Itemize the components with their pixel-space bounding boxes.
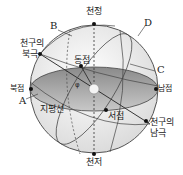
horizon-label: 지평선 (40, 104, 64, 114)
angle-phi-label: φ (75, 80, 80, 90)
celestial-north-pole-label-1: 천구의 (20, 38, 44, 48)
observer-center (89, 84, 99, 94)
north-point (29, 87, 33, 91)
celestial-north-pole-point (38, 52, 42, 56)
zenith-point (92, 22, 96, 26)
west-point-label: 서점 (108, 111, 124, 121)
letter-b: B (50, 21, 57, 31)
nadir-label: 천저 (86, 157, 102, 167)
celestial-north-pole-label-2: 북극 (22, 49, 38, 59)
letter-d: D (144, 18, 152, 28)
celestial-south-pole-label-1: 천구의 (150, 117, 174, 127)
nadir-point (92, 152, 96, 156)
east-point-label: 동점 (74, 55, 90, 65)
south-point-label: 남점 (158, 84, 172, 94)
celestial-south-pole-point (144, 119, 148, 123)
north-point-label: 북점 (10, 84, 24, 94)
celestial-sphere-diagram (0, 0, 183, 175)
zenith-label: 천정 (86, 6, 102, 16)
celestial-south-pole-label-2: 남극 (150, 128, 166, 138)
letter-a: A (19, 96, 26, 106)
letter-c: C (157, 65, 165, 75)
